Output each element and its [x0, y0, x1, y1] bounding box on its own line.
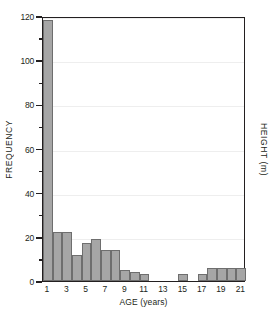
histogram-bar	[101, 250, 111, 281]
x-axis-tick-label: 19	[216, 285, 225, 294]
histogram-bar	[227, 268, 237, 281]
histogram-bar	[236, 268, 246, 281]
x-axis-tick-label: 17	[197, 285, 206, 294]
histogram-bar	[43, 20, 53, 281]
histogram-bar	[130, 272, 140, 281]
y-axis-tick-label: 80	[25, 101, 34, 110]
histogram-bar	[62, 232, 72, 281]
y-axis-tick-label: 0	[29, 278, 34, 287]
histogram-bar	[217, 268, 227, 281]
x-axis-tick-label: 5	[83, 285, 88, 294]
histogram-bar	[72, 255, 82, 282]
histogram-bar	[140, 274, 150, 281]
x-axis-title: AGE (years)	[42, 297, 245, 307]
y-axis-tick-label: 20	[25, 234, 34, 243]
x-axis-tick-label: 1	[45, 285, 50, 294]
x-axis-tick-label: 15	[178, 285, 187, 294]
y-axis-tick-label: 60	[25, 145, 34, 154]
y-axis-tick-label: 40	[25, 189, 34, 198]
x-axis-tick-label: 3	[64, 285, 69, 294]
histogram-bar	[198, 274, 208, 281]
y-axis-tick-label: 100	[20, 57, 34, 66]
secondary-y-axis-title: HEIGHT (m)	[256, 17, 272, 282]
histogram-bar	[207, 268, 217, 281]
histogram-bar	[120, 270, 130, 281]
histogram-bar	[91, 239, 101, 281]
x-axis-tick-label: 9	[122, 285, 127, 294]
x-axis-tick-label: 13	[158, 285, 167, 294]
y-axis: 020406080100120	[0, 17, 42, 282]
histogram-bar	[53, 232, 63, 281]
y-axis-tick-label: 120	[20, 13, 34, 22]
histogram-figure: FREQUENCY 020406080100120 HEIGHT (m) 135…	[0, 0, 277, 323]
x-axis-tick-label: 7	[103, 285, 108, 294]
bar-series	[43, 18, 244, 281]
histogram-bar	[82, 243, 92, 281]
x-axis-tick-label: 11	[139, 285, 147, 294]
x-axis-tick-label: 21	[236, 285, 245, 294]
histogram-bar	[178, 274, 188, 281]
x-axis: 13579111315171921	[42, 282, 245, 298]
secondary-y-axis-title-label: HEIGHT (m)	[259, 123, 269, 176]
histogram-bar	[111, 250, 121, 281]
plot-area	[42, 17, 245, 282]
